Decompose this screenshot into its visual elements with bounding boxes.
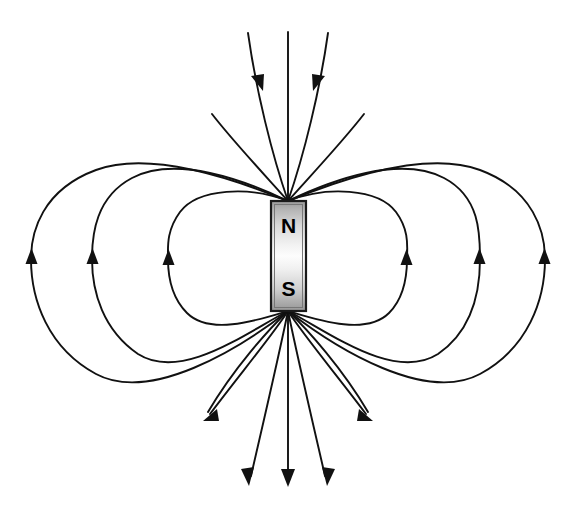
field-loop-outer-left-path (31, 163, 288, 382)
flare-left-arrow (203, 409, 219, 421)
bottom-left-arrow (241, 467, 254, 486)
escaping-lines-bottom (241, 311, 335, 487)
flare-right-outer-path (288, 311, 368, 412)
bar-magnet: N S (271, 201, 306, 311)
field-loop-outer-right-arrow (539, 248, 551, 264)
field-loop-middle-right-arrow (474, 248, 486, 264)
bottom-right-arrow (322, 467, 335, 486)
top-left-diagonal-path (248, 33, 288, 201)
bottom-center-arrow (281, 469, 295, 487)
flare-right-arrow (357, 409, 373, 421)
field-loop-inner-left-arrow (163, 249, 175, 265)
field-loop-middle-right-path (288, 169, 480, 362)
south-pole-label: S (281, 277, 295, 300)
escaping-lines-top (248, 32, 328, 201)
magnetic-field-diagram: N S (0, 0, 573, 508)
field-loop-outer-right-path (288, 163, 545, 382)
upper-sweep-right-path (288, 114, 364, 201)
field-loop-inner-right-arrow (401, 249, 413, 265)
north-pole-label: N (281, 214, 296, 237)
upper-sweep-left-path (212, 114, 288, 201)
field-loop-outer-left-arrow (26, 248, 38, 264)
top-right-diagonal-path (288, 33, 328, 201)
field-loop-middle-left-arrow (87, 248, 99, 264)
field-line-canvas: N S (0, 0, 573, 508)
flare-left-outer-path (208, 311, 288, 412)
